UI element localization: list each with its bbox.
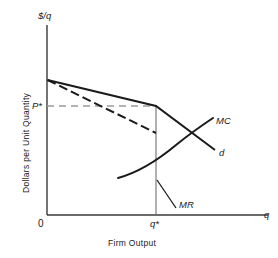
kinked-demand-curve-figure: $/q q 0 P* q* MC d MR Dollars per Unit Q…: [0, 0, 278, 258]
quantity-tick-label: q*: [150, 219, 159, 229]
price-tick-label: P*: [32, 101, 42, 111]
x-axis-unit-label: q: [264, 210, 269, 220]
y-axis-title: Dollars per Unit Quantity: [22, 93, 31, 193]
x-axis-title: Firm Output: [108, 239, 156, 248]
demand-label: d: [219, 148, 224, 158]
demand-curve: [48, 80, 216, 150]
y-axis-unit-label: $/q: [38, 11, 51, 21]
marginal-cost-label: MC: [216, 116, 231, 126]
origin-label: 0: [38, 219, 44, 229]
marginal-revenue-label: MR: [179, 200, 194, 210]
marginal-revenue-leader-line: [157, 180, 176, 208]
marginal-cost-curve: [118, 118, 213, 178]
